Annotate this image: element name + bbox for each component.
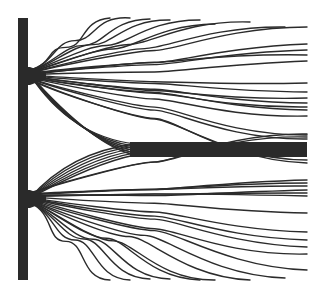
diagram-canvas: Double-slit streamline pattern xyxy=(0,0,328,296)
streamline xyxy=(30,79,307,139)
central-channel-band xyxy=(130,142,307,157)
streamline xyxy=(30,199,307,270)
streamline xyxy=(30,197,307,232)
streamline xyxy=(30,203,110,280)
streamline-plot xyxy=(0,0,328,296)
slit-wall xyxy=(18,18,28,280)
